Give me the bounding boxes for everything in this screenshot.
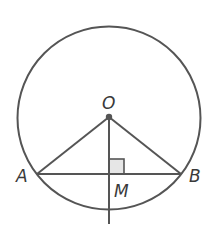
radius-oa (37, 117, 109, 174)
label-m: M (114, 181, 129, 201)
geometry-diagram: O A B M (0, 0, 218, 231)
right-angle-marker (109, 159, 124, 174)
label-a: A (15, 166, 28, 186)
label-o: O (102, 93, 115, 113)
center-point (106, 114, 112, 120)
label-b: B (189, 166, 201, 186)
